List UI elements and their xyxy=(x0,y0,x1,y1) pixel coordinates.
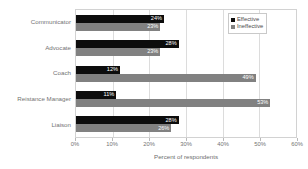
bar-effective: 12% xyxy=(76,66,120,74)
legend-label: Effective xyxy=(237,17,259,23)
bar-value-label: 11% xyxy=(104,92,117,98)
square-marker-icon xyxy=(231,18,235,22)
legend: Effective Ineffective xyxy=(228,13,267,34)
legend-label: Ineffective xyxy=(237,24,263,30)
bar-value-label: 12% xyxy=(107,67,120,73)
category-label: Advocate xyxy=(0,35,74,61)
legend-item-ineffective: Ineffective xyxy=(231,24,263,30)
category-label: Reistance Manager xyxy=(0,86,74,112)
bar-value-label: 24% xyxy=(151,16,164,22)
bar-effective: 28% xyxy=(76,40,179,48)
bar-effective: 11% xyxy=(76,91,116,99)
bar-row: 49% xyxy=(76,74,296,82)
bar-value-label: 28% xyxy=(165,41,178,47)
bar-ineffective: 23% xyxy=(76,23,160,31)
bar-row: 11% xyxy=(76,91,296,99)
legend-item-effective: Effective xyxy=(231,17,263,23)
bar-row: 28% xyxy=(76,116,296,124)
bar-row: 28% xyxy=(76,40,296,48)
bar-effective: 24% xyxy=(76,15,164,23)
bar-row: 53% xyxy=(76,99,296,107)
axis-tick-label: 40% xyxy=(217,142,229,148)
axis-tick-label: 60% xyxy=(291,142,303,148)
axis-title: Percent of respondents xyxy=(75,154,297,160)
bar-row: 23% xyxy=(76,48,296,56)
axis-tick-label: 10% xyxy=(106,142,118,148)
bar-value-label: 23% xyxy=(147,49,160,55)
axis-tick-label: 50% xyxy=(254,142,266,148)
category-label: Communicator xyxy=(0,9,74,35)
bar-value-label: 26% xyxy=(158,126,171,132)
bar-ineffective: 26% xyxy=(76,124,171,132)
category-label: Coach xyxy=(0,61,74,87)
bar-group: 12% 49% xyxy=(76,61,296,86)
bar-ineffective: 53% xyxy=(76,99,270,107)
axis-tick-label: 30% xyxy=(180,142,192,148)
bar-ineffective: 23% xyxy=(76,48,160,56)
bar-group: 28% 23% xyxy=(76,35,296,60)
axis-tick-label: 20% xyxy=(143,142,155,148)
bar-chart: Communicator Advocate Coach Reistance Ma… xyxy=(0,0,308,169)
bar-value-label: 53% xyxy=(257,100,270,106)
bar-value-label: 23% xyxy=(147,24,160,30)
bar-row: 12% xyxy=(76,66,296,74)
axis-tick-label: 0% xyxy=(71,142,79,148)
bar-effective: 28% xyxy=(76,116,179,124)
bar-group: 11% 53% xyxy=(76,86,296,111)
square-marker-icon xyxy=(231,25,235,29)
bar-value-label: 49% xyxy=(242,75,255,81)
category-axis: Communicator Advocate Coach Reistance Ma… xyxy=(0,9,74,138)
category-label: Liaison xyxy=(0,112,74,138)
bar-group: 28% 26% xyxy=(76,112,296,137)
bar-value-label: 28% xyxy=(165,118,178,124)
bar-row: 26% xyxy=(76,124,296,132)
value-axis: 0%10%20%30%40%50%60% xyxy=(75,138,297,150)
bar-ineffective: 49% xyxy=(76,74,256,82)
